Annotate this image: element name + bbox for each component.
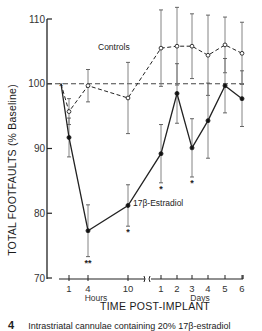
filled-marker (86, 229, 90, 233)
x-tick-label: 1 (158, 283, 163, 294)
open-marker (206, 53, 210, 57)
open-marker (190, 44, 194, 48)
series-controls (61, 7, 244, 133)
caption-text: Intrastriatal cannulae containing 20% 17… (28, 321, 230, 331)
x-tick-label: 10 (123, 283, 134, 294)
axis-text: 7080901001101410123456HoursDays×Controls… (28, 14, 244, 304)
open-marker (86, 84, 90, 88)
x-axis-label: TIME POST-IMPLANT (60, 300, 250, 312)
open-marker (175, 44, 179, 48)
x-tick-label: 5 (222, 283, 227, 294)
filled-marker (175, 91, 179, 95)
open-marker (126, 96, 130, 100)
x-tick-label: 6 (239, 283, 244, 294)
filled-marker (223, 84, 227, 88)
x-tick-label: 2 (174, 283, 179, 294)
axis-break-mark (149, 276, 150, 282)
estradiol-label: 17β-Estradiol (133, 198, 183, 208)
open-marker (240, 51, 244, 55)
axes (47, 19, 243, 282)
y-tick-label: 110 (29, 14, 45, 25)
filled-marker (159, 152, 163, 156)
y-tick-label: 80 (34, 208, 46, 219)
open-marker (67, 110, 71, 114)
figure-number: 4 (8, 319, 14, 331)
significance-marker: * (190, 178, 194, 188)
y-tick-label: 70 (34, 273, 46, 284)
filled-marker (206, 119, 210, 123)
y-tick-label: 100 (28, 78, 45, 89)
figure-caption: 4Intrastriatal cannulae containing 20% 1… (8, 319, 230, 331)
y-axis-label: TOTAL FOOTFAULTS (% Baseline) (3, 80, 21, 260)
y-tick-label: 90 (34, 143, 46, 154)
significance-marker: * (126, 227, 130, 237)
significance-marker: ** (84, 258, 92, 268)
significance-marker: * (159, 184, 163, 194)
origin-marker: × (59, 80, 64, 89)
open-marker (159, 46, 163, 50)
open-marker (223, 43, 227, 47)
filled-marker (190, 146, 194, 150)
controls-label: Controls (98, 42, 130, 52)
filled-marker (240, 97, 244, 101)
x-tick-label: 1 (66, 283, 71, 294)
filled-marker (67, 135, 71, 139)
filled-marker (126, 203, 130, 207)
